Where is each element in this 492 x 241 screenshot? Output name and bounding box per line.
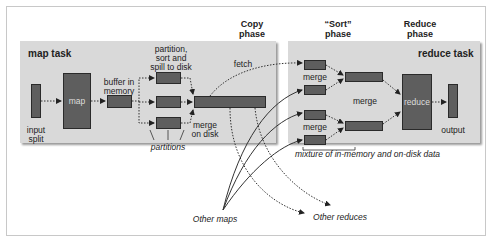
arrows-layer [0,0,492,241]
